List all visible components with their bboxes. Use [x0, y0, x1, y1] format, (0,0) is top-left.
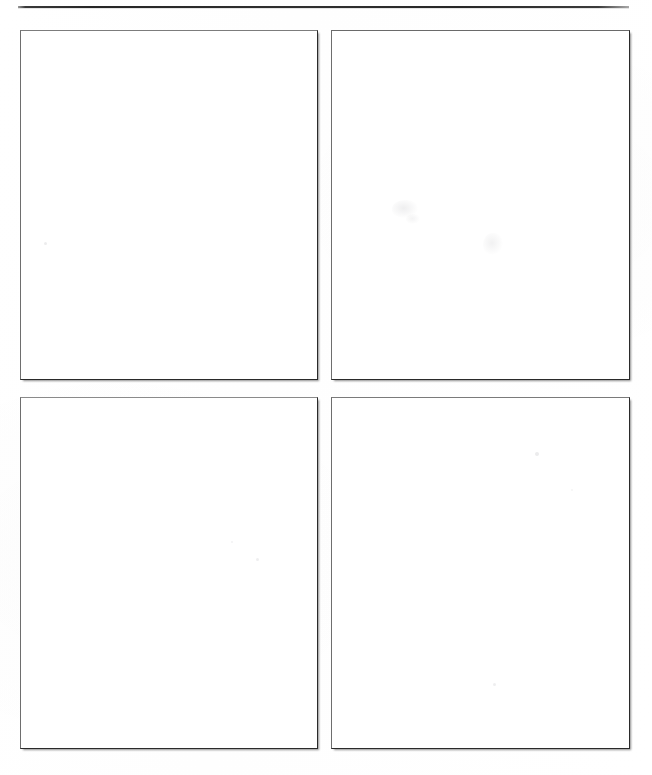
blank-frame-top-right[interactable] — [331, 30, 630, 380]
scanned-page — [0, 0, 652, 775]
blank-frame-bottom-right[interactable] — [331, 397, 630, 749]
top-horizontal-rule — [18, 6, 629, 8]
blank-frame-bottom-left[interactable] — [20, 397, 318, 749]
blank-frame-top-left[interactable] — [20, 30, 318, 380]
